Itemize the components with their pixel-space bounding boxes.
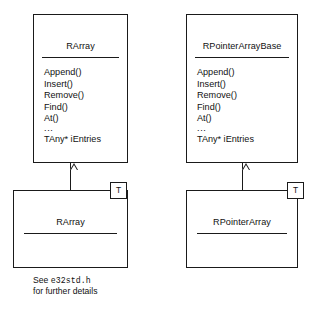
caption-line-2: for further details bbox=[33, 286, 163, 297]
member-item: Find() bbox=[197, 102, 254, 114]
member-item: Remove() bbox=[197, 90, 254, 102]
member-item: Insert() bbox=[197, 79, 254, 91]
template-parameter-box-rpointerarray[interactable]: T bbox=[287, 182, 304, 199]
class-name-separator bbox=[197, 233, 287, 234]
caption-header-filename: e32std.h bbox=[51, 276, 91, 285]
class-box-rpointerarray-template[interactable]: RPointerArray bbox=[186, 190, 298, 268]
class-name-rarray-template: RArray bbox=[14, 217, 127, 228]
member-list-rarray-base: Append() Insert() Remove() Find() At() .… bbox=[44, 67, 101, 146]
class-name-rarray-base: RArray bbox=[34, 41, 127, 52]
member-item: Append() bbox=[44, 67, 101, 79]
member-ellipsis: ... bbox=[197, 125, 254, 134]
member-item: TAny* iEntries bbox=[197, 134, 254, 146]
caption-prefix: See bbox=[33, 275, 51, 285]
class-box-rpointerarraybase[interactable]: RPointerArrayBase Append() Insert() Remo… bbox=[186, 14, 298, 163]
generalization-arrow-icon bbox=[70, 163, 78, 170]
class-box-rarray-template[interactable]: RArray bbox=[13, 190, 128, 268]
member-list-rpointerarraybase: Append() Insert() Remove() Find() At() .… bbox=[197, 67, 254, 146]
template-parameter-box-rarray[interactable]: T bbox=[110, 182, 127, 199]
class-name-separator bbox=[24, 233, 117, 234]
member-item: Find() bbox=[44, 102, 101, 114]
class-name-rpointerarray-template: RPointerArray bbox=[187, 217, 297, 228]
class-name-separator bbox=[42, 57, 119, 58]
class-name-rpointerarraybase: RPointerArrayBase bbox=[187, 41, 297, 52]
generalization-arrow-icon bbox=[242, 163, 250, 170]
class-box-rarray-base[interactable]: RArray Append() Insert() Remove() Find()… bbox=[33, 14, 128, 163]
diagram-caption: See e32std.h for further details bbox=[33, 275, 163, 298]
member-item: Remove() bbox=[44, 90, 101, 102]
member-item: Append() bbox=[197, 67, 254, 79]
member-item: Insert() bbox=[44, 79, 101, 91]
member-item: TAny* iEntries bbox=[44, 134, 101, 146]
member-ellipsis: ... bbox=[44, 125, 101, 134]
class-name-separator bbox=[195, 57, 289, 58]
caption-line-1: See e32std.h bbox=[33, 275, 163, 286]
uml-class-diagram: RArray Append() Insert() Remove() Find()… bbox=[0, 0, 318, 310]
